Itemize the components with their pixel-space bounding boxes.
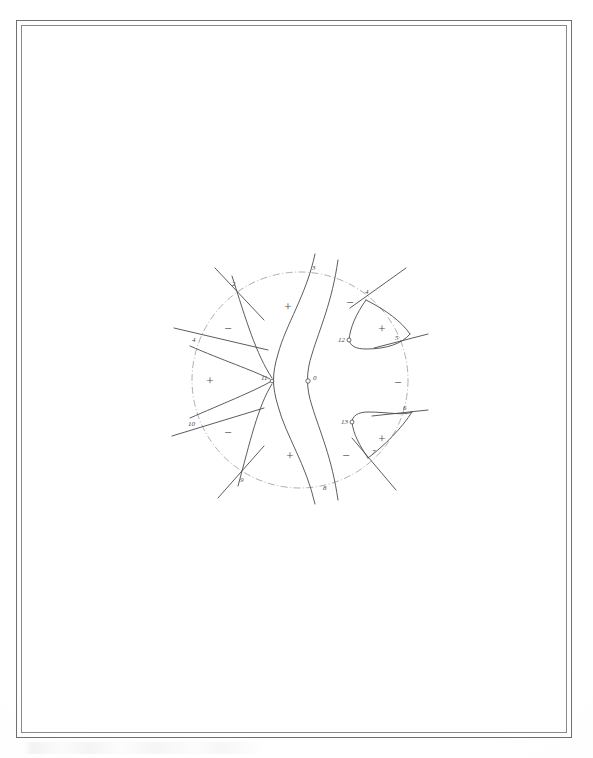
point-label-11: 11	[261, 374, 267, 382]
node-marker-12	[347, 338, 351, 342]
region-sign-upper-right-lens: +	[378, 321, 385, 336]
scanned-page: + − + − + − + − + − 2 3 4 5 12 6 13 7 8 …	[0, 0, 593, 758]
point-label-12: 12	[338, 336, 346, 344]
chord-lower-left	[172, 408, 264, 436]
chord-right-lower	[372, 410, 428, 416]
point-label-4-right: 4	[365, 288, 369, 296]
point-label-7: 7	[372, 448, 376, 456]
boundary-circle	[192, 272, 408, 488]
curve-left-lower-branch	[238, 384, 272, 486]
point-label-4-left: 4	[192, 336, 196, 344]
region-sign-upper-middle: +	[284, 299, 291, 314]
node-marker-0	[306, 379, 310, 383]
point-label-5: 5	[395, 334, 399, 342]
node-marker-13	[350, 420, 354, 424]
curve-lower-lens-left	[352, 422, 368, 458]
figure-diagram: + − + − + − + − + − 2 3 4 5 12 6 13 7 8 …	[160, 250, 440, 510]
curve-upper-lens-right	[366, 300, 410, 334]
diagram-canvas: + − + − + − + − + − 2 3 4 5 12 6 13 7 8 …	[160, 250, 440, 510]
scan-artifact-bottom-margin	[24, 742, 264, 754]
region-sign-left: +	[206, 373, 213, 388]
chord-top-right	[350, 268, 406, 308]
region-sign-lower-left: −	[224, 425, 231, 440]
chord-right-upper	[374, 334, 428, 348]
chord-left	[174, 328, 268, 350]
region-sign-right: −	[394, 375, 401, 390]
point-label-0: 0	[313, 374, 317, 382]
point-label-2: 2	[232, 280, 236, 288]
point-label-3: 3	[311, 264, 316, 272]
region-sign-upper-left: −	[224, 321, 231, 336]
curve-lower-lens-top	[352, 412, 412, 422]
point-label-8: 8	[323, 484, 327, 492]
point-label-9: 9	[240, 476, 244, 484]
region-sign-lower-middle: +	[286, 448, 293, 463]
point-label-13: 13	[341, 418, 349, 426]
chord-bottom-right	[352, 438, 396, 490]
point-label-6: 6	[403, 404, 407, 412]
node-marker-11	[270, 379, 274, 383]
curve-left-wedge-lower	[190, 382, 270, 418]
region-sign-lower-right-lens: +	[378, 431, 385, 446]
region-sign-upper-right-outer: −	[346, 295, 353, 310]
point-label-10: 10	[188, 420, 196, 428]
region-sign-lower-right-outer: −	[342, 448, 349, 463]
chord-top-left	[215, 268, 264, 320]
chord-bottom-left	[218, 446, 264, 498]
